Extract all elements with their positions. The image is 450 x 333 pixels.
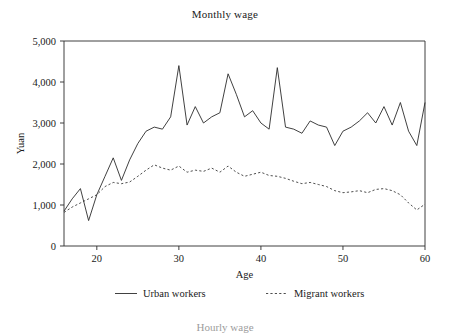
y-tick-label: 3,000 — [32, 118, 56, 129]
x-tick-label: 40 — [256, 253, 267, 264]
x-tick-label: 60 — [420, 253, 431, 264]
next-chart-title-partial: Hourly wage — [0, 321, 450, 333]
y-tick-label: 4,000 — [32, 77, 56, 88]
x-tick-label: 20 — [92, 253, 103, 264]
x-tick-label: 50 — [338, 253, 349, 264]
y-tick-label: 5,000 — [32, 36, 56, 47]
legend-label-urban-workers: Urban workers — [143, 288, 206, 299]
x-tick-label: 30 — [174, 253, 185, 264]
y-tick-label: 2,000 — [32, 159, 56, 170]
y-axis-title: Yuan — [15, 132, 26, 154]
legend-label-migrant-workers: Migrant workers — [294, 288, 364, 299]
y-tick-label: 1,000 — [32, 200, 56, 211]
y-tick-label: 0 — [51, 241, 56, 252]
series-line-urban-workers — [64, 66, 425, 221]
x-axis-title: Age — [236, 269, 254, 280]
